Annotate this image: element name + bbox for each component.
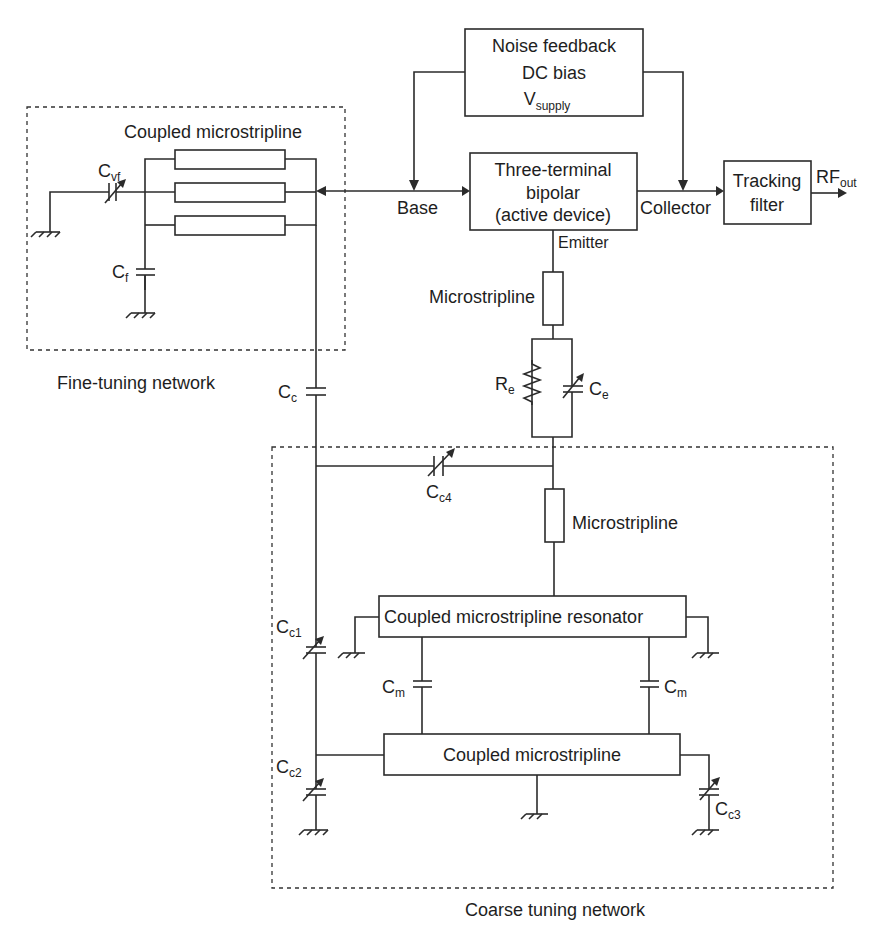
noise-feedback-label: Noise feedback xyxy=(492,36,617,56)
tracking-label: Tracking xyxy=(733,171,801,191)
collector-arrowhead xyxy=(678,180,688,191)
fine-network-arrowhead xyxy=(316,186,326,196)
oscillator-schematic: Noise feedback DC bias Vsupply Three-ter… xyxy=(0,0,887,938)
emitter-microstripline-label: Microstripline xyxy=(429,287,535,307)
cvf-label: Cvf xyxy=(98,161,121,184)
cc1-variable-arrow xyxy=(303,640,320,659)
cvf-variable-arrow xyxy=(105,183,122,203)
resonator-label: Coupled microstripline resonator xyxy=(384,607,643,627)
coarse-microstripline-label: Microstripline xyxy=(572,513,678,533)
dc-bias-label: DC bias xyxy=(522,63,586,83)
coupled-line-top xyxy=(175,150,285,169)
cc1-label: Cc1 xyxy=(276,617,302,640)
tracking-filter-arrowhead xyxy=(716,186,724,196)
coarse-microstripline xyxy=(545,489,564,542)
base-input-arrowhead xyxy=(462,186,470,196)
ground-icon xyxy=(692,653,719,658)
fine-tuning-network-label: Fine-tuning network xyxy=(57,373,216,393)
ground-icon xyxy=(299,830,328,835)
base-label: Base xyxy=(397,198,438,218)
emitter-label: Emitter xyxy=(558,234,609,251)
feedback-to-collector-wire xyxy=(643,72,683,182)
active-device-label: (active device) xyxy=(495,205,611,225)
cc4-label: Cc4 xyxy=(426,482,452,505)
re-label: Re xyxy=(495,374,515,397)
resonator-left-ground-wire xyxy=(355,617,379,653)
ground-icon xyxy=(521,814,548,819)
ce-label: Ce xyxy=(589,379,609,402)
feedback-to-base-wire xyxy=(414,72,465,182)
coarse-coupled-microstripline-label: Coupled microstripline xyxy=(443,745,621,765)
re-ce-parallel-wire xyxy=(532,339,572,437)
cc2-variable-arrow xyxy=(303,782,320,801)
bipolar-label: bipolar xyxy=(526,183,580,203)
emitter-microstripline xyxy=(543,272,563,325)
cm-right-label: Cm xyxy=(664,677,687,700)
cc3-label: Cc3 xyxy=(715,799,741,822)
ground-icon xyxy=(31,232,60,237)
coarse-tuning-network-label: Coarse tuning network xyxy=(465,900,646,920)
cc-label: Cc xyxy=(278,382,297,405)
three-terminal-label: Three-terminal xyxy=(494,160,611,180)
cvf-ground-wire xyxy=(50,192,109,232)
ground-icon xyxy=(692,830,719,835)
coupled-line-bottom xyxy=(175,216,285,235)
ground-icon xyxy=(126,313,155,318)
coupled-line-middle xyxy=(175,183,285,202)
ground-icon xyxy=(338,653,365,658)
cc2-label: Cc2 xyxy=(276,757,302,780)
rf-out-label: RFout xyxy=(816,167,857,190)
filter-label: filter xyxy=(750,195,784,215)
base-arrowhead xyxy=(409,180,419,191)
cc3-variable-arrow xyxy=(700,781,716,800)
resonator-right-ground-wire xyxy=(686,617,708,653)
cc4-variable-arrow xyxy=(428,452,451,476)
cm-left-label: Cm xyxy=(382,677,405,700)
cf-label: Cf xyxy=(112,262,129,285)
cc3-wire-top xyxy=(680,755,709,789)
collector-label: Collector xyxy=(640,198,711,218)
fine-coupled-microstripline-label: Coupled microstripline xyxy=(124,122,302,142)
